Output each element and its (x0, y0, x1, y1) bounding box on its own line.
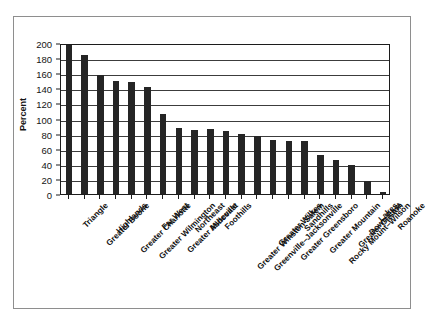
y-tick-label: 180 (36, 54, 52, 65)
x-tick-mark (351, 195, 352, 199)
bar (333, 160, 340, 194)
bar (380, 192, 387, 194)
bar (160, 114, 167, 194)
bar (317, 155, 324, 194)
x-tick-mark (178, 195, 179, 199)
y-tick-label: 40 (41, 159, 52, 170)
x-tick-mark (366, 195, 367, 199)
x-tick-mark (146, 195, 147, 199)
x-tick-mark (194, 195, 195, 199)
bar (348, 165, 355, 194)
x-axis-tick-marks (60, 195, 390, 200)
x-tick-mark (162, 195, 163, 199)
x-tick-mark (319, 195, 320, 199)
bar (176, 128, 183, 194)
bar (207, 129, 214, 194)
y-tick-label: 100 (36, 114, 52, 125)
x-tick-mark (382, 195, 383, 199)
x-tick-mark (115, 195, 116, 199)
bar (223, 131, 230, 194)
bar (301, 141, 308, 194)
y-tick-label: 120 (36, 99, 52, 110)
x-tick-mark (256, 195, 257, 199)
x-tick-mark (84, 195, 85, 199)
plot-area (60, 44, 390, 195)
y-tick-label: 140 (36, 84, 52, 95)
bar (81, 55, 88, 194)
bar (66, 45, 73, 194)
x-tick-mark (335, 195, 336, 199)
bar (128, 82, 135, 194)
y-tick-label: 200 (36, 39, 52, 50)
chart-figure: Percent 020406080100120140160180200 Tria… (0, 0, 430, 327)
y-tick-label: 0 (47, 190, 52, 201)
bar (270, 140, 277, 194)
x-tick-mark (68, 195, 69, 199)
y-tick-label: 160 (36, 69, 52, 80)
y-axis-tick-labels: 020406080100120140160180200 (0, 44, 60, 195)
bar (97, 75, 104, 194)
bar (191, 130, 198, 194)
bar (254, 136, 261, 194)
bar (113, 81, 120, 194)
x-tick-mark (304, 195, 305, 199)
y-tick-label: 60 (41, 144, 52, 155)
x-tick-mark (241, 195, 242, 199)
x-tick-mark (209, 195, 210, 199)
bar (286, 141, 293, 194)
x-tick-mark (131, 195, 132, 199)
x-tick-mark (225, 195, 226, 199)
bar (364, 181, 371, 194)
x-tick-mark (288, 195, 289, 199)
bar-series (61, 45, 389, 194)
x-tick-mark (272, 195, 273, 199)
y-tick-label: 80 (41, 129, 52, 140)
y-tick-label: 20 (41, 174, 52, 185)
bar (144, 87, 151, 194)
bar (238, 134, 245, 194)
x-tick-mark (99, 195, 100, 199)
